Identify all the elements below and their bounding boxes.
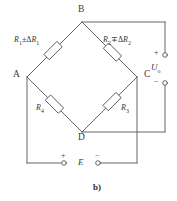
resistor-label-r3: R3 xyxy=(121,104,129,114)
node-label-d: D xyxy=(78,133,85,143)
terminal-source-minus xyxy=(96,161,101,166)
resistor-body-r4 xyxy=(46,95,64,113)
terminal-output-plus xyxy=(163,53,168,58)
r3-sub: 3 xyxy=(126,108,129,114)
terminal-output-minus xyxy=(163,81,168,86)
resistor-label-r1: R1±ΔR1 xyxy=(14,36,39,46)
r4-sub: 4 xyxy=(41,108,44,114)
output-plus-sign: + xyxy=(154,49,159,57)
r1-delta-sub: 1 xyxy=(36,40,39,46)
figure-caption: b) xyxy=(93,182,101,192)
source-label: E xyxy=(78,158,84,167)
terminal-source-plus xyxy=(62,161,67,166)
circuit-diagram xyxy=(0,0,177,201)
resistor-body-r3 xyxy=(103,92,121,110)
node-label-c: C xyxy=(144,70,150,80)
r2-delta-sub: 2 xyxy=(128,40,131,46)
output-minus-sign: − xyxy=(154,78,159,86)
resistor-label-r4: R4 xyxy=(36,104,44,114)
r2-operator: ∓ xyxy=(111,35,118,44)
source-plus-sign: + xyxy=(61,152,66,160)
node-label-a: A xyxy=(13,70,20,80)
node-label-b: B xyxy=(78,5,84,15)
resistor-body-r1 xyxy=(44,41,62,59)
resistor-body-r2 xyxy=(104,43,122,61)
resistor-label-r2: R2∓ΔR2 xyxy=(103,36,131,46)
figure-container: B A C D R1±ΔR1 R2∓ΔR2 R4 R3 + − Uo + − E… xyxy=(0,0,177,201)
output-voltage-label: Uo xyxy=(151,63,161,74)
source-minus-sign: − xyxy=(95,152,100,160)
output-subscript: o xyxy=(158,68,161,74)
